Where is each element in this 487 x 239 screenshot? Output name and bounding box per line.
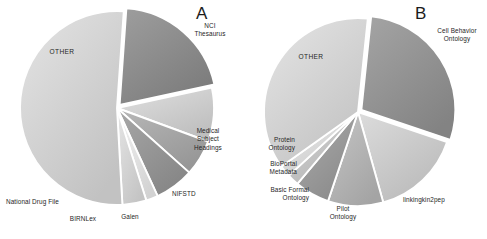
panel-letter-a: A	[196, 4, 207, 24]
slice-label-galen: Galen	[110, 213, 150, 221]
slice-label-protein-ontology: Protein Ontology	[243, 136, 295, 153]
pie-slice	[20, 11, 124, 205]
slice-label-linkingkin2pep: linkingkin2pep	[403, 196, 473, 204]
slice-label-other-a: OTHER	[38, 48, 86, 56]
slice-label-medical-subject-headings: Medical Subject Headings	[184, 127, 232, 152]
pie-chart-panel-a: A OTHER NCI Thesaurus Medical Subject He…	[0, 0, 244, 239]
slice-label-nifstd: NIFSTD	[172, 190, 222, 198]
panel-letter-b: B	[415, 4, 426, 24]
slice-label-basic-formal-ontology: Basic Formal Ontology	[247, 186, 309, 203]
slice-label-cell-behavior-ontology: Cell Behavior Ontology	[429, 27, 485, 44]
slice-label-bioportal-metadata: BioPortal Metadata	[243, 160, 297, 177]
figure-root: A OTHER NCI Thesaurus Medical Subject He…	[0, 0, 487, 239]
slice-label-nci-thesaurus: NCI Thesaurus	[186, 22, 234, 39]
slice-label-birnlex: BIRNLex	[62, 215, 104, 223]
slice-label-pilot-ontology: Pilot Ontology	[321, 205, 365, 222]
slice-label-other-b: OTHER	[287, 53, 335, 61]
pie-chart-panel-b: B OTHER Cell Behavior Ontology linkingki…	[243, 0, 487, 239]
slice-label-national-drug-file: National Drug File	[6, 198, 76, 206]
